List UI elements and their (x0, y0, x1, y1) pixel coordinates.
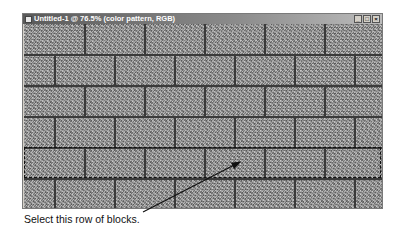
brick-joint (264, 86, 266, 116)
brick-joint (54, 117, 56, 147)
brick-joint (264, 148, 266, 178)
brick-joint (204, 86, 206, 116)
brick-joint (204, 148, 206, 178)
brick-joint (294, 55, 296, 85)
brick-joint (144, 148, 146, 178)
callout-caption: Select this row of blocks. (24, 213, 140, 225)
brick-joint (234, 179, 236, 208)
brick-joint (354, 117, 356, 147)
brick-joint (234, 55, 236, 85)
mortar-row-5 (24, 178, 382, 180)
brick-joint (324, 24, 326, 54)
mortar-row-2 (24, 85, 382, 87)
brick-joint (174, 117, 176, 147)
mortar-row-4 (24, 147, 382, 149)
document-window: Untitled-1 @ 76.5% (color pattern, RGB) … (22, 13, 383, 209)
brick-joint (114, 179, 116, 208)
brick-joint (144, 86, 146, 116)
title-bar[interactable]: Untitled-1 @ 76.5% (color pattern, RGB) … (23, 14, 382, 24)
brick-joint (174, 55, 176, 85)
brick-joint (84, 86, 86, 116)
brick-joint (324, 86, 326, 116)
brick-joint (294, 117, 296, 147)
brick-joint (114, 55, 116, 85)
brick-joint (114, 117, 116, 147)
brick-joint (234, 117, 236, 147)
brick-joint (294, 179, 296, 208)
mortar-row-3 (24, 116, 382, 118)
image-canvas[interactable] (24, 24, 382, 208)
brick-joint (324, 148, 326, 178)
maximize-button[interactable]: □ (363, 15, 371, 23)
minimize-button[interactable]: _ (354, 15, 362, 23)
brick-joint (54, 55, 56, 85)
mortar-row-1 (24, 54, 382, 56)
window-controls: _ □ × (354, 15, 380, 23)
brick-joint (264, 24, 266, 54)
brick-joint (144, 24, 146, 54)
window-title: Untitled-1 @ 76.5% (color pattern, RGB) (34, 14, 175, 24)
brick-joint (204, 24, 206, 54)
close-button[interactable]: × (372, 15, 380, 23)
brick-joint (354, 55, 356, 85)
brick-joint (354, 179, 356, 208)
brick-joint (84, 148, 86, 178)
brick-joint (174, 179, 176, 208)
brick-joint (54, 179, 56, 208)
document-icon (25, 16, 32, 23)
marquee-selection[interactable] (24, 147, 381, 178)
brick-joint (84, 24, 86, 54)
